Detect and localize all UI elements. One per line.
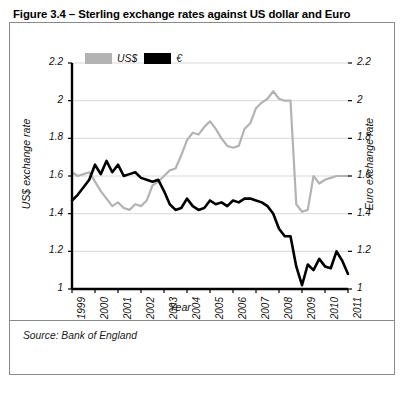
y-axis-right-tick-label: 1	[357, 282, 387, 293]
x-axis-tick-label: 2004	[191, 297, 202, 339]
y-axis-left-tick-label: 1.8	[33, 131, 63, 142]
series-line-usd	[72, 91, 348, 212]
y-axis-right-tick-label: 1.4	[357, 207, 387, 218]
chart-plot-area: US$€ US$ exchange rate Euro exchange rat…	[10, 23, 396, 376]
legend-label: €	[176, 53, 182, 64]
figure-frame: US$€ US$ exchange rate Euro exchange rat…	[9, 22, 395, 375]
x-axis-tick-label: 2005	[214, 297, 225, 339]
x-axis-tick-label: 2009	[306, 297, 317, 339]
y-axis-right-tick-label: 1.8	[357, 131, 387, 142]
legend-item: US$	[85, 53, 137, 64]
chart-legend: US$€	[85, 53, 182, 64]
x-axis-tick-label: 2011	[352, 297, 363, 339]
legend-swatch	[85, 53, 112, 64]
x-axis-tick-label: 2008	[283, 297, 294, 339]
chart-gridlines	[72, 63, 348, 251]
y-axis-right-tick-label: 1.6	[357, 169, 387, 180]
y-axis-left-tick-label: 2.2	[33, 56, 63, 67]
legend-item: €	[144, 53, 182, 64]
figure-title: Figure 3.4 – Sterling exchange rates aga…	[13, 8, 373, 20]
x-axis-tick-label: 2010	[329, 297, 340, 339]
x-axis-tick-label: 2003	[168, 297, 179, 339]
y-axis-left-tick-label: 1	[33, 282, 63, 293]
y-axis-left-tick-label: 2	[33, 94, 63, 105]
y-axis-right-tick-label: 2	[357, 94, 387, 105]
y-axis-left-tick-label: 1.6	[33, 169, 63, 180]
chart-tickmarks	[68, 63, 352, 293]
y-axis-left-title: US$ exchange rate	[20, 104, 32, 224]
legend-label: US$	[117, 53, 137, 64]
x-axis-tick-label: 2007	[260, 297, 271, 339]
y-axis-right-tick-label: 2.2	[357, 56, 387, 67]
chart-series-group	[72, 91, 348, 285]
x-axis-tick-label: 2006	[237, 297, 248, 339]
legend-swatch	[144, 53, 171, 64]
series-line-euro	[72, 161, 348, 285]
y-axis-left-tick-label: 1.2	[33, 244, 63, 255]
x-axis-tick-label: 2002	[145, 297, 156, 339]
y-axis-right-tick-label: 1.2	[357, 244, 387, 255]
source-divider	[10, 320, 394, 321]
source-text: Source: Bank of England	[23, 330, 137, 341]
y-axis-left-tick-label: 1.4	[33, 207, 63, 218]
